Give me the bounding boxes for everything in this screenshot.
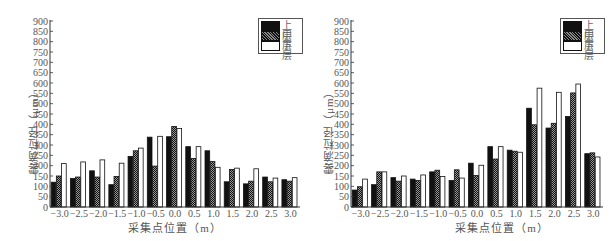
x-tick-label: 2.5 <box>265 208 278 219</box>
swatch-lower <box>563 41 582 51</box>
legend-item-lower: 下层 <box>563 41 603 51</box>
bar <box>518 152 523 207</box>
bar <box>527 108 532 207</box>
x-tick-label: −1.5 <box>108 208 126 219</box>
x-tick-label: −2.5 <box>70 208 88 219</box>
x-tick-label: −0.5 <box>147 208 165 219</box>
bar <box>76 177 81 207</box>
legend-item-upper: 上层 <box>261 21 301 31</box>
bar <box>532 125 537 207</box>
bar <box>435 170 440 207</box>
legend-item-upper: 上层 <box>563 21 603 31</box>
bar <box>382 172 387 207</box>
bar <box>595 157 600 207</box>
x-axis-label: 采集点位置（m） <box>120 219 230 235</box>
x-tick-label: −2.5 <box>371 208 389 219</box>
y-tick-label: 900 <box>33 16 48 27</box>
bar <box>565 116 570 207</box>
x-tick-label: −3.0 <box>51 208 69 219</box>
bar <box>537 88 542 207</box>
chart-left: −3.0−2.5−2.0−1.5−1.0−0.50.00.51.01.52.02… <box>0 0 307 241</box>
x-tick-label: −1.0 <box>429 208 447 219</box>
y-tick-label: 800 <box>33 36 48 47</box>
swatch-lower <box>261 41 280 51</box>
legend: 上层 中层 下层 <box>560 18 605 54</box>
bar <box>479 165 484 207</box>
bar <box>391 178 396 207</box>
bar <box>235 168 240 207</box>
bar <box>590 153 595 207</box>
bar <box>287 181 292 207</box>
bar <box>62 164 67 207</box>
bar <box>292 178 297 207</box>
y-tick-label: 900 <box>334 16 349 27</box>
x-tick-label: 1.0 <box>207 208 220 219</box>
chart-right: −3.0−2.5−2.0−1.5−1.0−0.50.00.51.01.52.02… <box>307 0 614 241</box>
bar <box>81 162 86 207</box>
x-tick-label: −1.5 <box>410 208 428 219</box>
bar <box>416 181 421 207</box>
bar <box>363 179 368 207</box>
bar <box>224 182 229 207</box>
x-tick-label: −2.0 <box>390 208 408 219</box>
y-tick-label: 850 <box>33 26 48 37</box>
bar <box>177 128 182 207</box>
bar <box>488 147 493 207</box>
bar <box>153 166 158 207</box>
x-tick-label: 0.0 <box>169 208 182 219</box>
bar <box>474 176 479 207</box>
x-tick-label: 1.5 <box>226 208 239 219</box>
bar <box>263 177 268 207</box>
y-tick-label: 750 <box>33 47 48 58</box>
bar <box>440 176 445 207</box>
x-tick-label: 0.5 <box>490 208 503 219</box>
y-axis-label: 雾滴粒径（μm） <box>321 60 335 200</box>
legend-item-middle: 中层 <box>261 31 301 41</box>
bar <box>396 181 401 207</box>
bar <box>172 126 177 207</box>
x-axis-label: 采集点位置（m） <box>447 219 557 235</box>
x-tick-label: −2.0 <box>89 208 107 219</box>
swatch-middle <box>563 31 582 41</box>
bar <box>357 187 362 207</box>
bar <box>210 162 215 207</box>
bar <box>254 169 259 207</box>
y-tick-label: 0 <box>43 202 48 213</box>
swatch-upper <box>563 21 582 31</box>
bar <box>191 158 196 207</box>
bar <box>243 184 248 207</box>
x-tick-label: 0.5 <box>188 208 201 219</box>
bar <box>571 93 576 207</box>
bar <box>460 178 465 207</box>
bar <box>498 147 503 207</box>
bar <box>186 147 191 207</box>
bar <box>410 179 415 207</box>
legend-item-lower: 下层 <box>261 41 301 51</box>
bar <box>138 148 143 207</box>
bar <box>56 176 61 207</box>
x-tick-label: 1.5 <box>529 208 542 219</box>
x-tick-label: −1.0 <box>127 208 145 219</box>
bar <box>229 169 234 207</box>
legend-item-middle: 中层 <box>563 31 603 41</box>
bar <box>352 190 357 207</box>
bar <box>273 178 278 207</box>
bar <box>114 176 119 207</box>
x-tick-label: 2.0 <box>246 208 259 219</box>
bar <box>167 137 172 207</box>
x-tick-label: 0.0 <box>471 208 484 219</box>
bar <box>90 171 95 207</box>
bar <box>158 136 163 207</box>
bar <box>507 150 512 207</box>
bar <box>109 185 114 207</box>
bar <box>372 185 377 207</box>
legend: 上层 中层 下层 <box>258 18 303 54</box>
y-tick-label: 0 <box>344 202 349 213</box>
y-tick-label: 800 <box>334 36 349 47</box>
y-tick-label: 750 <box>334 47 349 58</box>
bar <box>576 84 581 207</box>
y-tick-label: 100 <box>334 181 349 192</box>
y-tick-label: 700 <box>334 57 349 68</box>
bar <box>205 151 210 207</box>
bar <box>551 123 556 207</box>
